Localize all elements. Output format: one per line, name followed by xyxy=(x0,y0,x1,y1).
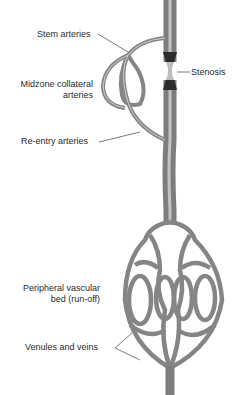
collateral-arteries xyxy=(103,38,165,140)
label-stenosis: Stenosis xyxy=(191,67,226,78)
label-midzone-line2: arteries xyxy=(10,90,93,101)
label-stem-arteries: Stem arteries xyxy=(37,29,91,40)
label-midzone-collateral: Midzone collateral arteries xyxy=(10,79,93,101)
peripheral-vascular-bed xyxy=(125,222,222,368)
label-reentry-arteries: Re-entry arteries xyxy=(21,136,88,147)
label-peripheral-bed: Peripheral vascular bed (run-off) xyxy=(10,283,100,305)
label-peripheral-line1: Peripheral vascular xyxy=(10,283,100,294)
label-midzone-line1: Midzone collateral xyxy=(10,79,93,90)
main-artery xyxy=(169,0,170,225)
collateral-circulation-illustration xyxy=(0,0,244,395)
label-venules-veins: Venules and veins xyxy=(25,342,98,353)
label-peripheral-line2: bed (run-off) xyxy=(10,294,100,305)
stenosis-narrowing xyxy=(163,52,177,90)
